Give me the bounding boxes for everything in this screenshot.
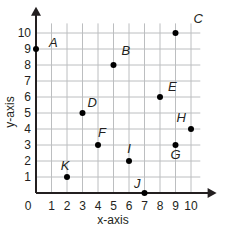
point-label: E	[168, 79, 177, 94]
point-dot	[64, 174, 70, 180]
y-tick-label: 8	[24, 58, 31, 72]
point-dot	[80, 110, 86, 116]
x-tick-label: 6	[126, 199, 133, 213]
point-dot	[188, 126, 194, 132]
y-tick-label: 2	[24, 154, 31, 168]
point-label: A	[48, 35, 58, 50]
y-tick-label: 4	[24, 122, 31, 136]
point-label: F	[98, 125, 107, 140]
point-label: D	[88, 95, 97, 110]
x-tick-label: 2	[64, 199, 71, 213]
x-tick-label: 10	[184, 199, 198, 213]
point-dot	[142, 190, 148, 196]
x-tick-label: 8	[157, 199, 164, 213]
coordinate-plane: 012345678910 12345678910 ABCDEFGHIJK x-a…	[0, 0, 226, 231]
point-dot	[111, 62, 117, 68]
point-label: J	[133, 176, 141, 191]
point-label: I	[127, 141, 131, 156]
y-tick-label: 3	[24, 138, 31, 152]
x-tick-labels: 012345678910	[25, 199, 198, 213]
point-dot	[95, 142, 101, 148]
point-i: I	[126, 141, 132, 164]
y-tick-label: 6	[24, 90, 31, 104]
point-label: H	[177, 110, 187, 125]
y-tick-label: 5	[24, 106, 31, 120]
data-points: ABCDEFGHIJK	[33, 11, 204, 196]
point-label: G	[170, 147, 180, 162]
x-axis-arrow-icon	[208, 188, 217, 198]
point-dot	[126, 158, 132, 164]
point-c: C	[173, 11, 204, 36]
point-label: B	[122, 43, 131, 58]
axes	[31, 7, 217, 198]
x-tick-label: 5	[110, 199, 117, 213]
point-label: C	[194, 11, 204, 26]
y-tick-label: 10	[18, 26, 32, 40]
point-dot	[173, 30, 179, 36]
x-tick-label: 0	[25, 199, 32, 213]
point-label: K	[61, 158, 71, 173]
x-tick-label: 3	[79, 199, 86, 213]
y-tick-labels: 12345678910	[18, 26, 32, 184]
point-dot	[157, 94, 163, 100]
y-axis-arrow-icon	[31, 7, 41, 16]
y-tick-label: 7	[24, 74, 31, 88]
y-tick-label: 1	[24, 170, 31, 184]
x-tick-label: 4	[95, 199, 102, 213]
x-tick-label: 7	[141, 199, 148, 213]
x-tick-label: 9	[172, 199, 179, 213]
y-axis-label: y-axis	[3, 96, 17, 127]
point-dot	[33, 46, 39, 52]
x-tick-label: 1	[48, 199, 55, 213]
y-tick-label: 9	[24, 42, 31, 56]
x-axis-label: x-axis	[97, 213, 128, 227]
